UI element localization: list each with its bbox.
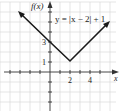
x-tick-label-4: 4 [88, 76, 92, 85]
equation-label: y = |x − 2| + 1 [55, 14, 105, 24]
y-tick-label-1: 1 [42, 58, 46, 67]
x-axis-label: x [113, 74, 118, 83]
y-axis-label: f(x) [31, 1, 44, 11]
y-tick-label-3: 3 [42, 38, 46, 47]
x-axis [4, 70, 114, 74]
graph: f(x) y = |x − 2| + 1 x 2 4 1 3 [0, 0, 122, 111]
x-tick-label-2: 2 [68, 76, 72, 85]
y-axis [48, 6, 52, 111]
